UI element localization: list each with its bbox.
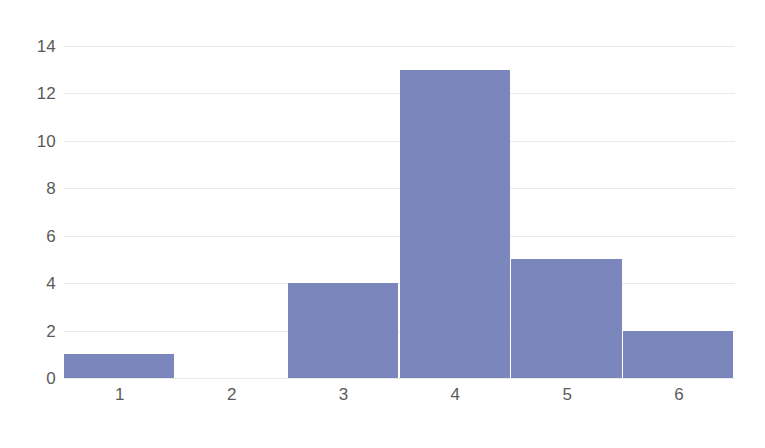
y-axis-tick-label: 14 xyxy=(0,38,56,55)
bar xyxy=(511,259,621,378)
y-axis-tick-label: 10 xyxy=(0,132,56,149)
histogram-chart: 02468101214 123456 xyxy=(0,0,765,448)
x-axis-tick-labels: 123456 xyxy=(64,386,735,416)
bar xyxy=(400,70,510,378)
y-axis-tick-label: 0 xyxy=(0,370,56,387)
x-axis-tick-label: 1 xyxy=(115,386,125,403)
bar xyxy=(64,354,174,378)
bar-series xyxy=(64,46,735,378)
x-axis-tick-label: 5 xyxy=(562,386,572,403)
x-axis-tick-label: 4 xyxy=(451,386,461,403)
y-axis-tick-label: 4 xyxy=(0,275,56,292)
plot-area xyxy=(64,46,735,378)
gridline xyxy=(64,378,735,379)
y-axis-tick-label: 2 xyxy=(0,322,56,339)
x-axis-tick-label: 2 xyxy=(227,386,237,403)
y-axis-tick-labels: 02468101214 xyxy=(0,0,56,448)
x-axis-tick-label: 3 xyxy=(339,386,349,403)
bar xyxy=(623,331,733,378)
y-axis-tick-label: 8 xyxy=(0,180,56,197)
bar xyxy=(288,283,398,378)
y-axis-tick-label: 12 xyxy=(0,85,56,102)
x-axis-tick-label: 6 xyxy=(674,386,684,403)
y-axis-tick-label: 6 xyxy=(0,227,56,244)
